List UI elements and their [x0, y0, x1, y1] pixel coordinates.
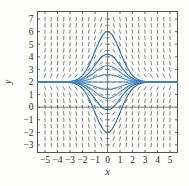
x-tick-label: −4 [52, 155, 62, 165]
x-tick-label: −5 [40, 155, 50, 165]
x-tick-label: −3 [65, 155, 75, 165]
slope-field-chart: −5−4−3−2−1012345 −3−2−101234567 x y [0, 0, 189, 186]
y-tick-label: 0 [29, 102, 34, 112]
y-tick-label: 3 [29, 65, 34, 75]
x-tick-labels: −5−4−3−2−1012345 [40, 155, 173, 165]
y-tick-label: 5 [29, 40, 34, 50]
x-axis-label: x [104, 167, 110, 177]
x-tick-label: 4 [155, 155, 160, 165]
x-tick-label: 2 [130, 155, 135, 165]
y-tick-label: −1 [23, 115, 33, 125]
x-tick-label: 1 [118, 155, 123, 165]
y-tick-label: −3 [23, 140, 33, 150]
x-tick-label: 3 [143, 155, 148, 165]
y-tick-label: 1 [29, 90, 34, 100]
y-axis-label: y [3, 79, 13, 85]
x-tick-label: 0 [105, 155, 110, 165]
x-tick-label: −2 [77, 155, 87, 165]
y-tick-label: 6 [29, 27, 34, 37]
y-tick-label: 2 [29, 77, 34, 87]
y-tick-label: 7 [29, 14, 34, 24]
y-tick-label: 4 [29, 52, 34, 62]
x-tick-label: 5 [168, 155, 173, 165]
y-tick-labels: −3−2−101234567 [23, 14, 33, 150]
y-tick-label: −2 [23, 128, 33, 138]
x-tick-label: −1 [90, 155, 100, 165]
figure-container: −5−4−3−2−1012345 −3−2−101234567 x y [0, 0, 189, 186]
